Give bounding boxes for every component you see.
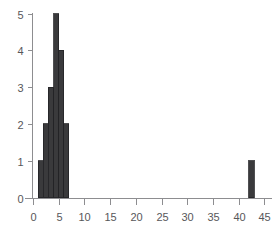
x-tick-label: 25 — [156, 211, 168, 223]
x-tick-label: 45 — [258, 211, 270, 223]
x-tick-label: 35 — [207, 211, 219, 223]
histogram-bar — [54, 14, 59, 198]
x-tick-label: 40 — [233, 211, 245, 223]
x-tick-label: 30 — [181, 211, 193, 223]
x-tick-label: 15 — [104, 211, 116, 223]
y-tick-label: 0 — [17, 193, 23, 205]
y-tick-label: 4 — [17, 45, 23, 57]
x-tick-label: 0 — [30, 211, 36, 223]
plot-canvas: 051015202530354045 012345 — [0, 0, 275, 234]
y-axis-ticks: 012345 — [17, 9, 32, 205]
y-tick-label: 5 — [17, 9, 23, 21]
histogram-bar — [249, 161, 254, 198]
histogram-figure: 051015202530354045 012345 — [0, 0, 275, 234]
y-tick-label: 2 — [17, 119, 23, 131]
histogram-bar — [43, 124, 48, 198]
x-tick-label: 5 — [56, 211, 62, 223]
y-tick-label: 1 — [17, 156, 23, 168]
y-tick-label: 3 — [17, 82, 23, 94]
histogram-bar — [48, 87, 53, 197]
x-tick-label: 10 — [78, 211, 90, 223]
x-axis-ticks: 051015202530354045 — [30, 199, 270, 223]
bars-group — [38, 14, 254, 198]
histogram-bar — [38, 161, 43, 198]
histogram-bar — [59, 50, 64, 197]
histogram-bar — [64, 124, 69, 198]
x-tick-label: 20 — [130, 211, 142, 223]
